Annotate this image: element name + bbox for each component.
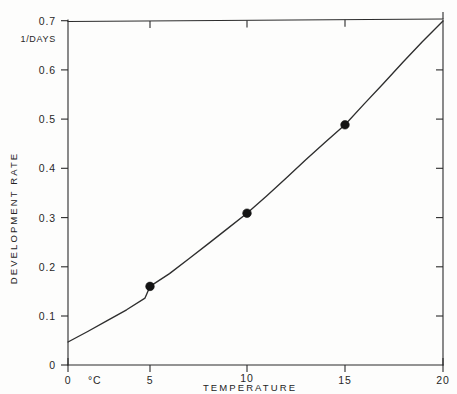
y-tick-label-0.2: 0.2: [39, 261, 56, 273]
y-tick-label-0.5: 0.5: [39, 113, 56, 125]
x-tick-label-0: 0: [65, 374, 72, 386]
y-tick-label-0.7: 0.7: [39, 15, 56, 27]
data-points: [146, 121, 350, 291]
data-point-10c: [243, 209, 252, 218]
y-axis-unit-label: 1/DAYS: [20, 34, 56, 44]
x-tick-label-5: 5: [147, 374, 154, 386]
y-tick-label-0.3: 0.3: [39, 212, 56, 224]
y-tick-label-0.1: 0.1: [39, 310, 56, 322]
x-tick-label-20: 20: [436, 374, 449, 386]
chart-figure: 0.7 0.6 0.5 0.4 0.3 0.2 0.1 0 1/DAYS 0 5…: [0, 0, 457, 394]
x-axis-top: [68, 19, 443, 22]
plot-frame: [68, 19, 443, 365]
development-rate-curve: [68, 21, 443, 342]
x-axis-unit-label: °C: [88, 374, 102, 386]
y-tick-label-0.6: 0.6: [39, 64, 56, 76]
x-axis-title: TEMPERATURE: [203, 382, 297, 393]
x-tick-label-15: 15: [338, 374, 351, 386]
development-rate-vs-temperature-chart: 0.7 0.6 0.5 0.4 0.3 0.2 0.1 0 1/DAYS 0 5…: [0, 0, 457, 394]
y-axis-ticks-left: [61, 21, 68, 365]
y-axis-title: DEVELOPMENT RATE: [8, 152, 19, 285]
y-axis-ticks-right: [436, 70, 443, 316]
y-tick-label-0.4: 0.4: [39, 162, 56, 174]
y-tick-label-0: 0: [49, 359, 56, 371]
data-point-5c: [146, 282, 155, 291]
data-point-15c: [341, 121, 350, 130]
y-axis-tick-labels: 0.7 0.6 0.5 0.4 0.3 0.2 0.1 0: [39, 15, 56, 371]
